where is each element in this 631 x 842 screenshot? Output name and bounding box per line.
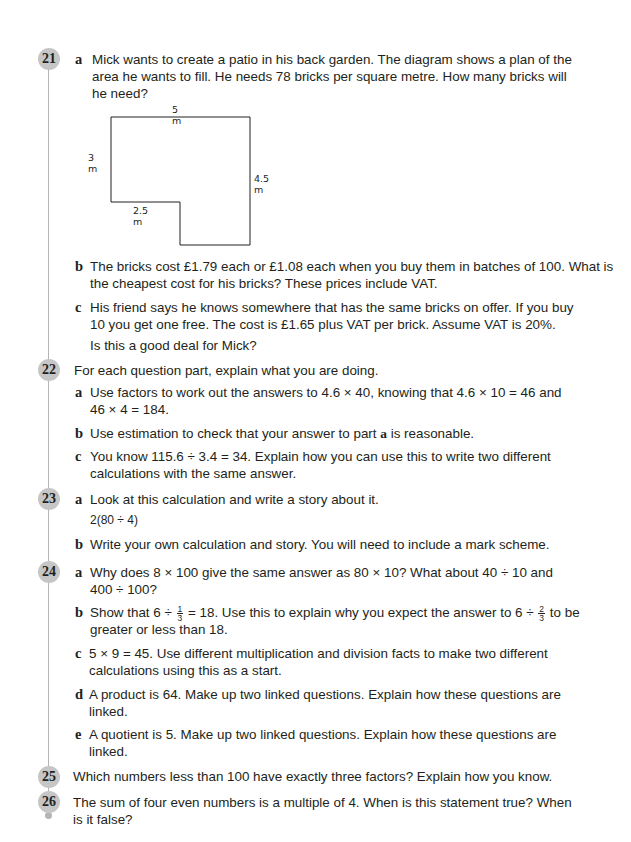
question-number-24: 24 — [38, 561, 60, 583]
q21c-line-3: Is this a good deal for Mick? — [90, 337, 257, 354]
q24e-line-2: linked. — [89, 743, 128, 760]
q22c-line-2: calculations with the same answer. — [90, 465, 296, 482]
q24d-line-2: linked. — [89, 703, 128, 720]
part-label-22a: a — [75, 384, 82, 401]
part-label-22c: c — [75, 448, 81, 465]
q21b-line-2: the cheapest cost for his bricks? These … — [90, 275, 438, 292]
q22b-bold-ref: a — [380, 426, 387, 441]
q24c-line-2: calculations using this as a start. — [89, 662, 282, 679]
part-label-24d: d — [75, 686, 83, 703]
q22a-line-1: Use factors to work out the answers to 4… — [90, 384, 562, 401]
q23a-expression: 2(80 ÷ 4) — [90, 512, 138, 529]
q22c-line-1: You know 115.6 ÷ 3.4 = 34. Explain how y… — [90, 448, 551, 465]
q21c-line-1: His friend says he knows somewhere that … — [90, 299, 574, 316]
part-label-24a: a — [75, 564, 82, 581]
part-label-23b: b — [75, 536, 83, 553]
q22b-text-pre: Use estimation to check that your answer… — [90, 426, 380, 441]
q23b-line-1: Write your own calculation and story. Yo… — [90, 536, 549, 553]
dim-top: 5 m — [172, 104, 181, 126]
q24a-line-2: 400 ÷ 100? — [90, 581, 157, 598]
part-label-22b: b — [75, 425, 83, 442]
part-label-24b: b — [75, 604, 83, 621]
q24b-text-1: Show that 6 ÷ — [90, 605, 176, 620]
q21b-line-1: The bricks cost £1.79 each or £1.08 each… — [90, 258, 613, 275]
part-label-21c: c — [75, 299, 81, 316]
q23a-line-1: Look at this calculation and write a sto… — [90, 491, 379, 508]
part-label-24c: c — [75, 645, 81, 662]
q26-line-1: The sum of four even numbers is a multip… — [73, 794, 572, 811]
dim-bottom-step: 2.5 m — [133, 205, 148, 227]
q24b-line-1: Show that 6 ÷ 13 = 18. Use this to expla… — [90, 604, 580, 622]
question-number-23: 23 — [38, 488, 60, 510]
fraction-two-thirds: 23 — [538, 605, 545, 622]
q25-line-1: Which numbers less than 100 have exactly… — [73, 768, 552, 785]
part-label-21b: b — [75, 258, 83, 275]
q22b-text-post: is reasonable. — [387, 426, 474, 441]
q24b-line-2: greater or less than 18. — [90, 621, 228, 638]
fraction-one-third: 13 — [177, 605, 184, 622]
dim-right: 4.5 m — [254, 173, 269, 195]
q22b-line-1: Use estimation to check that your answer… — [90, 425, 474, 442]
q22a-line-2: 46 × 4 = 184. — [90, 401, 169, 418]
part-label-23a: a — [75, 491, 82, 508]
question-number-25: 25 — [38, 766, 60, 788]
q24a-line-1: Why does 8 × 100 give the same answer as… — [90, 564, 553, 581]
dim-left: 3 m — [88, 152, 97, 174]
q24b-text-2: = 18. Use this to explain why you expect… — [184, 605, 537, 620]
q21c-line-2: 10 you get one free. The cost is £1.65 p… — [90, 316, 556, 333]
q24e-line-1: A quotient is 5. Make up two linked ques… — [89, 726, 556, 743]
q22-intro: For each question part, explain what you… — [74, 362, 378, 379]
q24c-line-1: 5 × 9 = 45. Use different multiplication… — [89, 645, 548, 662]
part-label-24e: e — [75, 726, 81, 743]
fraction-denominator: 3 — [538, 614, 545, 622]
question-number-26: 26 — [38, 791, 60, 813]
q26-line-2: is it false? — [73, 811, 133, 828]
q24b-text-3: to be — [546, 605, 580, 620]
l-shape-plan — [0, 0, 631, 260]
rail-end-dot — [45, 812, 52, 819]
question-number-22: 22 — [38, 359, 60, 381]
q24d-line-1: A product is 64. Make up two linked ques… — [89, 686, 561, 703]
